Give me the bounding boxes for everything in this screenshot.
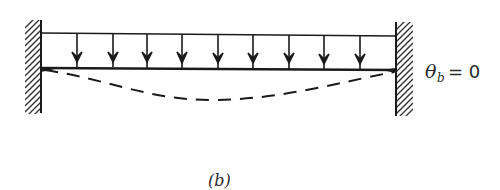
beam (41, 68, 396, 70)
load-arrow-icon (284, 35, 294, 69)
load-arrow-icon (319, 35, 329, 69)
deflection-curve (45, 70, 394, 100)
load-arrow-icon (72, 33, 82, 67)
figure-caption: (b) (208, 171, 231, 190)
svg-text:= 0: = 0 (448, 61, 480, 82)
load-arrow-icon (248, 35, 258, 69)
load-arrow-icon (177, 34, 187, 68)
load-arrow-icon (213, 34, 223, 68)
load-arrow-icon (355, 36, 365, 70)
load-arrow-icon (142, 34, 152, 68)
load-arrows (72, 33, 365, 70)
beam-diagram: θ b = 0 (b) (0, 0, 500, 190)
svg-text:θ: θ (425, 60, 437, 82)
right-fixed-support (396, 13, 413, 126)
left-fixed-support (25, 12, 41, 124)
slope-condition-label: θ b = 0 (425, 60, 480, 85)
load-arrow-icon (108, 34, 118, 67)
svg-text:b: b (437, 71, 445, 85)
